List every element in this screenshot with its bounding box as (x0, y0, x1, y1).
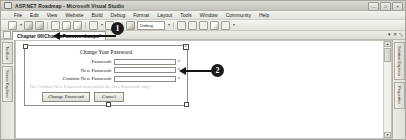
change-password-control[interactable]: Change Your Password Password: * New Pas… (24, 45, 188, 106)
password-required-marker: * (178, 59, 184, 65)
confirm-new-password-label: Confirm New Password: (63, 75, 112, 82)
password-label: Password: (91, 58, 112, 65)
tab-list-dropdown-icon[interactable]: ▾ (388, 32, 391, 38)
window-icon[interactable] (210, 21, 219, 30)
scroll-up-icon[interactable]: ▲ (384, 41, 391, 47)
menu-item-tools[interactable]: Tools (176, 12, 196, 19)
change-password-buttons: Change Password Cancel (28, 92, 184, 102)
comment-icon[interactable] (177, 21, 186, 30)
resize-handle-bottom-right[interactable] (184, 102, 189, 107)
field-row-confirm-new-password: Confirm New Password: * (28, 75, 184, 82)
toolbar-separator (85, 22, 86, 29)
new-project-dropdown-icon[interactable]: ▾ (19, 22, 22, 29)
visual-studio-window: ASP.NET Roadmap - Microsoft Visual Studi… (0, 0, 406, 140)
tab-close-icon[interactable]: ✕ (393, 32, 397, 38)
toolbar-separator (173, 22, 174, 29)
menu-item-format[interactable]: Format (129, 12, 153, 19)
start-debug-icon[interactable] (126, 21, 135, 30)
maximize-button[interactable]: □ (380, 2, 391, 11)
smart-tag-icon[interactable]: ▸ (183, 44, 189, 50)
find-icon[interactable] (221, 21, 230, 30)
web-form-designer-surface[interactable]: Change Your Password Password: * New Pas… (15, 40, 392, 139)
cut-icon[interactable] (51, 21, 60, 30)
resize-handle-top-left[interactable] (23, 44, 28, 49)
field-row-new-password: New Password: * (28, 67, 184, 74)
save-icon[interactable] (24, 21, 33, 30)
callout-2: 2 (211, 64, 224, 77)
menu-item-window[interactable]: Window (196, 12, 222, 19)
copy-icon[interactable] (62, 21, 71, 30)
callout-1-line (59, 35, 116, 37)
password-input[interactable] (114, 59, 176, 65)
new-project-icon[interactable] (8, 21, 17, 30)
designer-vertical-scrollbar[interactable]: ▲ ▼ (383, 41, 391, 138)
paste-icon[interactable] (73, 21, 82, 30)
menu-item-debug[interactable]: Debug (107, 12, 130, 19)
scrollbar-thumb[interactable] (384, 48, 391, 62)
confirm-new-password-required-marker: * (178, 76, 184, 82)
dock-tab-solution-explorer[interactable]: Solution Explorer (394, 42, 405, 80)
find-dropdown-icon[interactable]: ▾ (232, 22, 235, 29)
indent-icon[interactable] (199, 21, 208, 30)
minimize-button[interactable]: — (368, 2, 379, 11)
close-button[interactable]: ✕ (392, 2, 403, 11)
validation-message: The Confirm New Password must match the … (29, 84, 184, 90)
undo-dropdown-icon[interactable]: ▾ (100, 22, 103, 29)
field-row-password: Password: * (28, 58, 184, 65)
tabstrip-controls: ▾ ✕ ⤡ (388, 32, 403, 38)
menu-item-layout[interactable]: Layout (153, 12, 176, 19)
menu-item-file[interactable]: File (10, 12, 26, 19)
uncomment-icon[interactable] (188, 21, 197, 30)
toolbar: ▾ ▾ ▾ Debug ▾ ▾ (1, 20, 405, 31)
resize-handle-bottom-center[interactable] (106, 102, 111, 107)
toolbar-separator (47, 22, 48, 29)
menu-item-view[interactable]: View (43, 12, 62, 19)
save-all-icon[interactable] (35, 21, 44, 30)
dock-tab-toolbox[interactable]: Toolbox (2, 42, 13, 64)
undo-icon[interactable] (89, 21, 98, 30)
menu-item-website[interactable]: Website (61, 12, 87, 19)
new-password-input[interactable] (114, 67, 176, 73)
solution-configuration-select[interactable]: Debug (137, 21, 165, 30)
document-icon (3, 31, 11, 39)
cancel-button[interactable]: Cancel (94, 92, 124, 102)
window-title: ASP.NET Roadmap - Microsoft Visual Studi… (15, 3, 124, 9)
menu-item-help[interactable]: Help (255, 12, 273, 19)
new-password-label: New Password: (81, 67, 112, 74)
visual-studio-logo-icon (4, 2, 12, 9)
window-controls: — □ ✕ (368, 2, 403, 11)
scroll-down-icon[interactable]: ▼ (384, 132, 391, 138)
right-dock-panel: Solution Explorer Properties (392, 40, 405, 139)
solution-configuration-dropdown-icon[interactable]: ▾ (167, 22, 170, 29)
menu-item-edit[interactable]: Edit (26, 12, 43, 19)
solution-configuration-value: Debug (140, 22, 153, 29)
confirm-new-password-input[interactable] (114, 76, 176, 82)
menu-item-build[interactable]: Build (87, 12, 106, 19)
menu-bar: File Edit View Website Build Debug Forma… (1, 11, 405, 20)
dock-tab-server-explorer[interactable]: Server Explorer (2, 66, 13, 102)
title-bar: ASP.NET Roadmap - Microsoft Visual Studi… (1, 1, 405, 11)
change-password-button[interactable]: Change Password (42, 92, 90, 102)
left-dock-panel: Toolbox Server Explorer (1, 40, 15, 139)
change-password-heading: Change Your Password (28, 49, 184, 56)
callout-1: 1 (111, 22, 124, 35)
dock-tab-properties[interactable]: Properties (394, 82, 405, 108)
tab-pin-icon[interactable]: ⤡ (399, 32, 403, 38)
menu-item-community[interactable]: Community (222, 12, 255, 19)
